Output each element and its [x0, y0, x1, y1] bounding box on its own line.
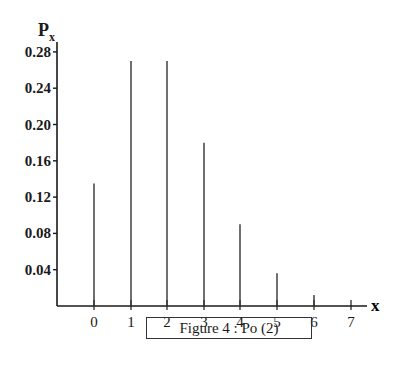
x-axis-label: x [371, 296, 380, 315]
bars [94, 61, 314, 306]
axes [57, 42, 367, 306]
y-tick-label: 0.24 [25, 80, 52, 96]
poisson-spike-chart: 0.040.080.120.160.200.240.28 01234567 x [0, 0, 401, 369]
y-tick-label: 0.16 [25, 153, 52, 169]
x-tick-label: 1 [127, 314, 135, 330]
y-tick-label: 0.28 [25, 44, 51, 60]
figure-caption: Figure 4 : Po (2) [146, 317, 312, 339]
y-axis-label: Px [38, 20, 55, 45]
y-tick-label: 0.12 [25, 189, 51, 205]
caption-text: Figure 4 : Po (2) [179, 320, 278, 337]
y-tick-label: 0.04 [25, 262, 52, 278]
y-tick-label: 0.08 [25, 225, 51, 241]
x-tick-label: 7 [347, 314, 355, 330]
x-tick-label: 0 [90, 314, 98, 330]
y-tick-label: 0.20 [25, 117, 51, 133]
y-ticks: 0.040.080.120.160.200.240.28 [25, 44, 57, 278]
